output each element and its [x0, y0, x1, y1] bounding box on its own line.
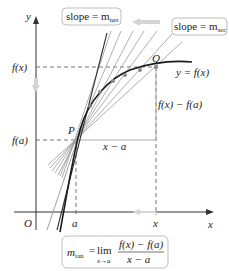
- point-q-label: Q: [152, 52, 160, 64]
- curve-label: y = f(x): [175, 66, 209, 79]
- tick-fx: f(x): [12, 61, 28, 74]
- svg-text:x→a: x→a: [96, 257, 111, 265]
- x-axis-label: x: [207, 218, 213, 230]
- svg-text:f(x) − f(a): f(x) − f(a): [119, 238, 163, 251]
- tick-fa: f(a): [12, 134, 28, 147]
- secant-points: [88, 65, 158, 108]
- svg-text:=: =: [89, 244, 95, 256]
- y-axis-label: y: [25, 10, 31, 22]
- point-p-label: P: [67, 124, 75, 136]
- svg-text:x − a: x − a: [126, 253, 151, 265]
- arrow-left-icon: [132, 18, 160, 26]
- y-axis-arrow-icon: [33, 16, 39, 24]
- tick-x: x: [152, 217, 158, 229]
- arrow-down-icon: [32, 78, 40, 93]
- run-label: x − a: [102, 140, 127, 152]
- tangent-line: [57, 33, 107, 230]
- tick-a: a: [72, 217, 78, 229]
- origin-label: O: [24, 217, 32, 229]
- x-axis-arrow-icon: [206, 209, 214, 215]
- svg-text:lim: lim: [97, 244, 112, 256]
- tangent-secant-diagram: y x O a x f(x) f(a) P Q y = f(x) f(x) − …: [0, 0, 229, 271]
- rise-label: f(x) − f(a): [158, 98, 202, 111]
- arrow-left-xaxis-icon: [132, 209, 156, 215]
